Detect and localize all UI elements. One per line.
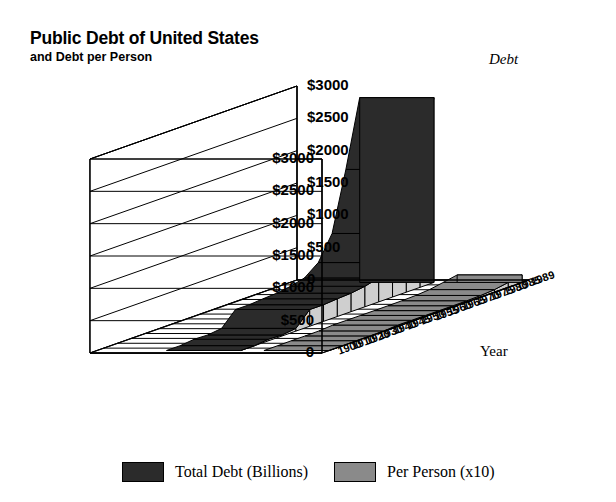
value-tick-right: 0 (307, 270, 315, 287)
legend-label-per-person: Per Person (x10) (387, 463, 495, 481)
legend-item-total-debt: Total Debt (Billions) (122, 462, 308, 482)
legend-swatch-per-person (334, 462, 376, 482)
value-tick-left: $1500 (228, 246, 314, 263)
value-tick-left: $1000 (228, 278, 314, 295)
value-tick-right: $500 (307, 238, 340, 255)
value-tick-right: $3000 (307, 76, 349, 93)
value-tick-right: $2000 (307, 141, 349, 158)
legend-swatch-total-debt (122, 462, 164, 482)
ribbon-top-face (236, 305, 324, 310)
legend-item-per-person: Per Person (x10) (334, 462, 495, 482)
category-axis-title: Year (480, 343, 508, 360)
ribbon-top-face (194, 335, 282, 339)
ribbon-top-face (208, 328, 296, 335)
value-tick-left: $2000 (228, 214, 314, 231)
ribbon-end-cap (360, 98, 434, 283)
value-tick-right: $1500 (307, 173, 349, 190)
legend-label-total-debt: Total Debt (Billions) (175, 463, 308, 481)
ribbon-top-face (249, 299, 337, 305)
page-title: Public Debt of United States (30, 28, 259, 49)
value-tick-left: 0 (228, 343, 314, 360)
page-subtitle: and Debt per Person (30, 50, 152, 64)
chart-page: Public Debt of United States and Debt pe… (0, 0, 616, 502)
value-tick-left: $2500 (228, 181, 314, 198)
value-tick-right: $1000 (307, 205, 349, 222)
value-axis-title: Debt (489, 51, 518, 68)
value-tick-left: $500 (228, 311, 314, 328)
ribbon-end-cap (457, 275, 522, 282)
value-tick-left: $3000 (228, 149, 314, 166)
value-tick-right: $2500 (307, 108, 349, 125)
